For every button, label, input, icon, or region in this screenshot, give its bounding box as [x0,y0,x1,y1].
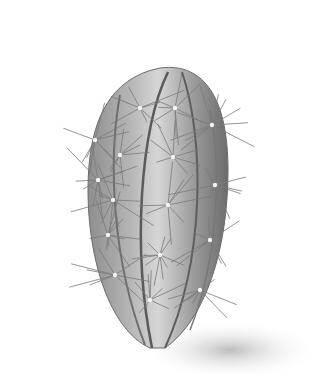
areole [111,198,115,202]
areole [173,106,177,110]
areole [113,273,117,277]
areole [158,253,162,257]
areole [171,155,175,159]
cactus-illustration [0,0,325,383]
areole [96,178,100,182]
spine [200,290,227,318]
areole [213,183,217,187]
areole [208,238,212,242]
areole [166,203,170,207]
spine [200,290,236,305]
areole [138,106,142,110]
areole [93,138,97,142]
areole [210,123,214,127]
areole [118,153,122,157]
areole [198,288,202,292]
areole [106,233,110,237]
areole [148,298,152,302]
spine [64,128,95,140]
